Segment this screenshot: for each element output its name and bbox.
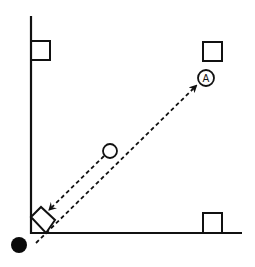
top-right-square (203, 42, 222, 61)
top-left-square (31, 41, 50, 60)
open-circle (103, 144, 117, 158)
rotated-square (31, 207, 55, 233)
filled-dot (11, 237, 27, 253)
circle-A-label: A (203, 73, 210, 84)
circle-to-square-arrow (49, 156, 104, 210)
bottom-right-square (203, 213, 222, 233)
dot-to-A-arrow (36, 86, 196, 243)
diagram-canvas: A (0, 0, 255, 267)
labeled-circle-A: A (198, 70, 214, 86)
